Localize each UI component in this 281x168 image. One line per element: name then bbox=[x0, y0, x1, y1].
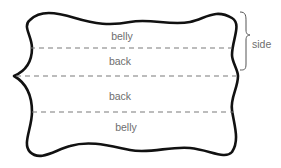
side-label: side bbox=[252, 38, 271, 50]
section-label-back-bottom: back bbox=[109, 90, 132, 102]
hide-diagram: belly back back belly side bbox=[0, 0, 281, 168]
section-label-belly-top: belly bbox=[111, 30, 133, 42]
side-bracket-icon bbox=[240, 12, 250, 70]
section-label-back-top: back bbox=[109, 55, 132, 67]
section-label-belly-bottom: belly bbox=[115, 121, 137, 133]
